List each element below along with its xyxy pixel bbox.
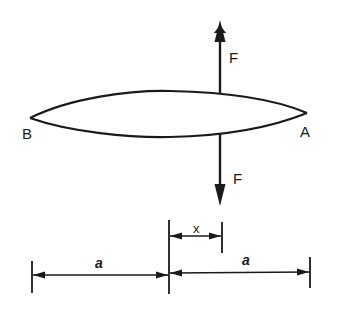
arrow-down-icon: [215, 184, 226, 206]
dimension-x-label: x: [193, 221, 200, 236]
end-label-a: A: [300, 123, 310, 140]
beam-lens: [30, 91, 307, 137]
beam-bottom-edge: [30, 113, 307, 137]
force-up-arrow: [215, 20, 226, 93]
beam-top-edge: [30, 91, 307, 118]
dimension-a-right-line: [170, 272, 309, 273]
dimension-a-left-label: a: [95, 255, 103, 271]
end-label-b: B: [22, 125, 32, 142]
force-down-label: F: [233, 170, 242, 187]
force-down-arrow: [215, 134, 226, 206]
diagram-canvas: F F B A x a a: [0, 0, 341, 318]
arrow-up-icon: [215, 20, 226, 42]
force-up-label: F: [229, 49, 238, 66]
dimension-a-right-label: a: [242, 252, 250, 268]
